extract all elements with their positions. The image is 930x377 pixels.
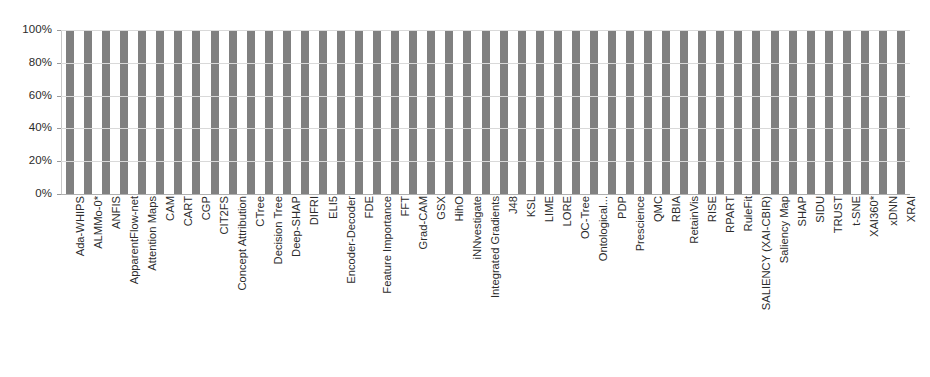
bar[interactable] xyxy=(734,30,742,194)
bar[interactable] xyxy=(66,30,74,194)
x-tick-label: RBIA xyxy=(671,196,682,222)
x-tick-label-text: PDP xyxy=(617,196,628,219)
bar[interactable] xyxy=(463,30,471,194)
y-tick-mark xyxy=(57,30,61,31)
bar[interactable] xyxy=(355,30,363,194)
x-tick-label: SALIENCY (XAI-CBIR) xyxy=(761,196,772,310)
bar[interactable] xyxy=(897,30,905,194)
bar[interactable] xyxy=(500,30,508,194)
bar[interactable] xyxy=(536,30,544,194)
x-tick-label: LIME xyxy=(544,196,555,222)
x-tick-label-text: Integrated Gradients xyxy=(490,196,501,298)
bar[interactable] xyxy=(301,30,309,194)
bar[interactable] xyxy=(445,30,453,194)
x-axis-labels: Ada-WHIPSALMMo-0*ANFISApparentFlow-netAt… xyxy=(61,196,910,371)
x-tick-label-text: HihO xyxy=(454,196,465,222)
bar[interactable] xyxy=(373,30,381,194)
x-tick-label-text: CIT2FS xyxy=(219,196,230,235)
bar[interactable] xyxy=(138,30,146,194)
x-tick-label-text: CART xyxy=(183,196,194,226)
x-tick-label: FFT xyxy=(400,196,411,217)
x-tick-label: xDNN xyxy=(888,196,899,226)
x-tick-label: SIDU xyxy=(815,196,826,223)
bar[interactable] xyxy=(843,30,851,194)
x-tick-label: Ontological... xyxy=(598,196,609,261)
y-tick-mark xyxy=(57,96,61,97)
x-tick-label-text: RetainVis xyxy=(689,196,700,244)
x-tick-label-text: QMC xyxy=(653,196,664,222)
bar[interactable] xyxy=(102,30,110,194)
x-tick-label-text: SIDU xyxy=(815,196,826,223)
x-tick-label: OC-Tree xyxy=(580,196,591,239)
bar[interactable] xyxy=(409,30,417,194)
y-tick-label: 80% xyxy=(29,57,52,69)
x-tick-label: Concept Attribution xyxy=(237,196,248,291)
bar[interactable] xyxy=(174,30,182,194)
bar[interactable] xyxy=(337,30,345,194)
bar[interactable] xyxy=(771,30,779,194)
x-tick-label: CGP xyxy=(201,196,212,220)
x-tick-label: iNNvestigate xyxy=(472,196,483,259)
bar[interactable] xyxy=(427,30,435,194)
bar[interactable] xyxy=(572,30,580,194)
bar[interactable] xyxy=(482,30,490,194)
x-tick-label: Feature Importance xyxy=(382,196,393,294)
x-tick-label: PDP xyxy=(617,196,628,219)
x-tick-label-text: XRAI xyxy=(906,196,917,222)
x-tick-label: RuleFit xyxy=(743,196,754,231)
bar[interactable] xyxy=(391,30,399,194)
x-tick-label-text: KSL xyxy=(526,196,537,217)
y-tick-label: 100% xyxy=(22,24,52,36)
x-tick-label-text: GSX xyxy=(436,196,447,220)
bar[interactable] xyxy=(247,30,255,194)
x-tick-label-text: ApparentFlow-net xyxy=(129,196,140,284)
y-axis: 0%20%40%60%80%100% xyxy=(0,0,56,377)
bar[interactable] xyxy=(211,30,219,194)
x-tick-label: CTree xyxy=(255,196,266,227)
bar[interactable] xyxy=(283,30,291,194)
bar[interactable] xyxy=(608,30,616,194)
bar[interactable] xyxy=(554,30,562,194)
bar[interactable] xyxy=(716,30,724,194)
gridline xyxy=(61,96,910,97)
x-tick-label-text: RBIA xyxy=(671,196,682,222)
bar[interactable] xyxy=(789,30,797,194)
bar[interactable] xyxy=(319,30,327,194)
bar[interactable] xyxy=(84,30,92,194)
bar[interactable] xyxy=(879,30,887,194)
bar[interactable] xyxy=(825,30,833,194)
x-tick-label-text: DIFRI xyxy=(309,196,320,225)
bar[interactable] xyxy=(662,30,670,194)
bar[interactable] xyxy=(626,30,634,194)
x-tick-label-text: LORE xyxy=(562,196,573,226)
bar[interactable] xyxy=(156,30,164,194)
x-tick-label: Ada-WHIPS xyxy=(75,196,86,256)
bar[interactable] xyxy=(590,30,598,194)
bar[interactable] xyxy=(680,30,688,194)
x-tick-label: J48 xyxy=(508,196,519,214)
bar[interactable] xyxy=(698,30,706,194)
y-tick-label: 40% xyxy=(29,122,52,134)
x-tick-label: Grad-CAM xyxy=(418,196,429,249)
x-tick-label-text: Attention Maps xyxy=(147,196,158,271)
bar[interactable] xyxy=(752,30,760,194)
x-tick-label-text: SALIENCY (XAI-CBIR) xyxy=(761,196,772,310)
bar[interactable] xyxy=(518,30,526,194)
x-tick-label: HihO xyxy=(454,196,465,222)
bar[interactable] xyxy=(192,30,200,194)
x-tick-label-text: CGP xyxy=(201,196,212,220)
bar[interactable] xyxy=(229,30,237,194)
bar[interactable] xyxy=(807,30,815,194)
bar[interactable] xyxy=(120,30,128,194)
x-tick-label: Attention Maps xyxy=(147,196,158,271)
bar[interactable] xyxy=(644,30,652,194)
bar[interactable] xyxy=(861,30,869,194)
gridline xyxy=(61,30,910,31)
x-tick-label: Decision Tree xyxy=(273,196,284,264)
x-tick-label: Integrated Gradients xyxy=(490,196,501,298)
x-tick-label: RetainVis xyxy=(689,196,700,244)
gridline xyxy=(61,63,910,64)
bar[interactable] xyxy=(265,30,273,194)
x-tick-label: GSX xyxy=(436,196,447,220)
x-tick-label: XAI360* xyxy=(869,196,880,237)
